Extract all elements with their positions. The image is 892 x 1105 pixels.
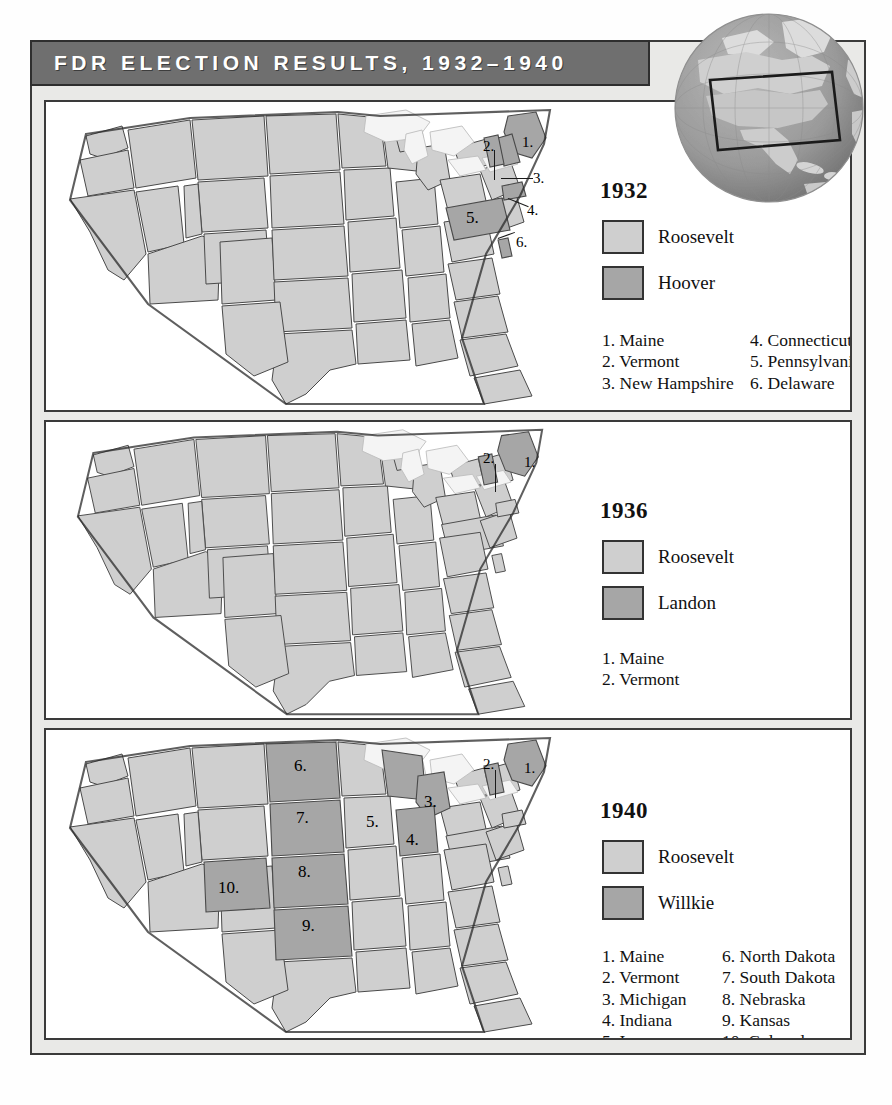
globe-inset	[662, 8, 877, 213]
legend-1936: 1936 Roosevelt Landon 1. Maine 2. Vermon…	[582, 422, 847, 718]
key-1932-6: 6. Delaware	[750, 373, 852, 394]
map-panel-1940: 1. 2. 3. 4. 5. 6. 7. 8. 9. 10. 1940 Roos…	[44, 728, 852, 1040]
callout-1940-7: 7.	[296, 808, 309, 828]
us-map-1936	[50, 424, 570, 720]
legend-label-roosevelt-1932: Roosevelt	[658, 226, 734, 248]
swatch-willkie-1940	[602, 886, 644, 920]
callout-1932-5: 5.	[466, 208, 479, 228]
callout-1932-6: 6.	[516, 234, 527, 251]
key-1932-1: 1. Maine	[602, 330, 734, 351]
map-panel-1936: 1. 2. 1936 Roosevelt Landon 1. Maine 2. …	[44, 420, 852, 720]
callout-1940-4: 4.	[406, 830, 419, 850]
callout-1932-4: 4.	[527, 202, 538, 219]
leader-1932-3	[501, 178, 533, 179]
leader-1940-2	[495, 770, 496, 798]
callout-1940-2: 2.	[483, 756, 494, 773]
state-delaware	[498, 238, 512, 258]
key-1936-2: 2. Vermont	[602, 669, 679, 690]
legend-1940: 1940 Roosevelt Willkie 1. Maine 2. Vermo…	[582, 730, 847, 1038]
callout-1940-8: 8.	[298, 862, 311, 882]
callout-1940-6: 6.	[294, 756, 307, 776]
leader-1936-2	[495, 464, 496, 492]
key-1940-4: 4. Indiana	[602, 1010, 687, 1031]
year-label-1940: 1940	[600, 798, 648, 824]
callout-1940-5: 5.	[366, 812, 379, 832]
legend-label-roosevelt-1936: Roosevelt	[658, 546, 734, 568]
callout-1940-9: 9.	[302, 916, 315, 936]
key-1940-1: 1. Maine	[602, 946, 687, 967]
callout-1936-1: 1.	[524, 454, 535, 471]
key-1936-1: 1. Maine	[602, 648, 679, 669]
key-1932-2: 2. Vermont	[602, 351, 734, 372]
poster-title-bar: FDR ELECTION RESULTS, 1932–1940	[30, 40, 650, 86]
key-1932-5: 5. Pennsylvania	[750, 351, 852, 372]
legend-label-willkie-1940: Willkie	[658, 892, 714, 914]
key-1940-6: 6. North Dakota	[722, 946, 835, 967]
key-1940-5: 5. Iowa	[602, 1031, 687, 1040]
callout-1932-1: 1.	[522, 134, 533, 151]
key-1940-10: 10. Colorado	[722, 1031, 835, 1040]
swatch-hoover-1932	[602, 266, 644, 300]
swatch-landon-1936	[602, 586, 644, 620]
key-1940-3: 3. Michigan	[602, 989, 687, 1010]
callout-1940-10: 10.	[218, 878, 239, 898]
callout-1932-3: 3.	[533, 170, 544, 187]
legend-label-hoover-1932: Hoover	[658, 272, 715, 294]
us-map-1940	[50, 732, 570, 1040]
year-label-1932: 1932	[600, 178, 648, 204]
callout-1936-2: 2.	[483, 450, 494, 467]
key-1940-2: 2. Vermont	[602, 967, 687, 988]
key-1940-8: 8. Nebraska	[722, 989, 835, 1010]
legend-label-landon-1936: Landon	[658, 592, 716, 614]
year-label-1936: 1936	[600, 498, 648, 524]
key-1940-9: 9. Kansas	[722, 1010, 835, 1031]
legend-label-roosevelt-1940: Roosevelt	[658, 846, 734, 868]
key-1932-3: 3. New Hampshire	[602, 373, 734, 394]
key-1940-7: 7. South Dakota	[722, 967, 835, 988]
swatch-roosevelt-1936	[602, 540, 644, 574]
key-1932-4: 4. Connecticut	[750, 330, 852, 351]
callout-1940-3: 3.	[424, 792, 437, 812]
swatch-roosevelt-1940	[602, 840, 644, 874]
leader-1932-2	[494, 150, 495, 180]
swatch-roosevelt-1932	[602, 220, 644, 254]
callout-1940-1: 1.	[524, 760, 535, 777]
page-title: FDR ELECTION RESULTS, 1932–1940	[32, 51, 568, 75]
callout-1932-2: 2.	[483, 138, 494, 155]
